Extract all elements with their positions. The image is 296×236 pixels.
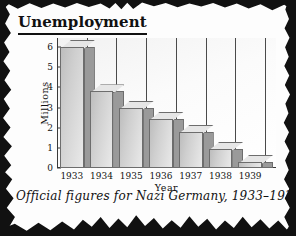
bar-front-face <box>179 132 203 168</box>
bar-side-face <box>262 162 273 168</box>
x-axis-tick-label: 1937 <box>179 171 202 181</box>
page-title: Unemployment <box>18 12 147 35</box>
bar <box>209 149 233 168</box>
bar <box>119 108 143 169</box>
bar <box>149 119 173 168</box>
y-axis-tick-label: 1 <box>47 143 53 153</box>
x-axis-tick-label: 1935 <box>120 171 143 181</box>
bar-front-face <box>149 119 173 168</box>
bar-front-face <box>90 91 114 168</box>
x-axis-tick-label: 1936 <box>150 171 173 181</box>
bar-series <box>57 38 276 168</box>
torn-paper-page: Unemployment Millions 0123456 1933193419… <box>0 0 296 236</box>
x-axis-tick-label: 1934 <box>90 171 113 181</box>
bar-front-face <box>238 162 262 168</box>
chart-title: Unemployment <box>18 14 147 35</box>
plot-area: Millions 0123456 19331934193519361937193… <box>57 38 276 168</box>
y-axis-tick-label: 6 <box>47 42 53 52</box>
bar <box>238 162 262 168</box>
x-axis-tick-label: 1939 <box>239 171 262 181</box>
y-axis-tick-label: 4 <box>47 82 53 92</box>
x-axis-tick-label: 1938 <box>209 171 232 181</box>
bar-front-face <box>209 149 233 168</box>
y-axis-tick-label: 0 <box>47 163 53 173</box>
bar <box>90 91 114 168</box>
torn-edge-left <box>0 0 17 236</box>
torn-edge-bottom <box>0 214 296 236</box>
y-axis-tick-label: 5 <box>47 62 53 72</box>
bar-front-face <box>60 47 84 168</box>
bar-front-face <box>119 108 143 169</box>
bar <box>60 47 84 168</box>
y-axis-tick-label: 2 <box>47 123 53 133</box>
chart-caption: Official figures for Nazi Germany, 1933–… <box>16 189 283 203</box>
x-axis-tick-label: 1933 <box>60 171 83 181</box>
bar <box>179 132 203 168</box>
chart-card: Unemployment Millions 0123456 1933193419… <box>16 11 283 214</box>
y-axis-tick-label: 3 <box>47 103 53 113</box>
